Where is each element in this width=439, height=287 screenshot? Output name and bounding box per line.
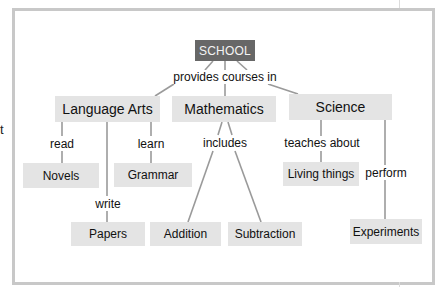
link-label-includes: includes (202, 136, 248, 150)
node-living-things[interactable]: Living things (283, 162, 359, 186)
node-papers[interactable]: Papers (71, 222, 145, 246)
link-label-teaches-about: teaches about (283, 136, 360, 150)
node-subtraction-label: Subtraction (235, 227, 296, 241)
node-school-label: SCHOOL (199, 44, 251, 58)
link-label-perform: perform (364, 166, 407, 180)
node-experiments[interactable]: Experiments (350, 219, 422, 244)
link-label-learn: learn (137, 137, 166, 151)
node-novels-label: Novels (43, 169, 80, 183)
node-addition[interactable]: Addition (150, 222, 221, 246)
node-mathematics[interactable]: Mathematics (172, 96, 276, 122)
link-label-write: write (94, 197, 121, 211)
node-experiments-label: Experiments (353, 225, 420, 239)
node-addition-label: Addition (164, 227, 207, 241)
node-science[interactable]: Science (289, 94, 392, 120)
node-grammar-label: Grammar (128, 168, 179, 182)
node-school[interactable]: SCHOOL (195, 40, 255, 61)
node-language-arts[interactable]: Language Arts (55, 96, 160, 122)
link-label-read: read (49, 137, 75, 151)
node-novels[interactable]: Novels (23, 163, 99, 188)
node-subtraction[interactable]: Subtraction (228, 222, 302, 246)
node-papers-label: Papers (89, 227, 127, 241)
node-living-things-label: Living things (288, 167, 355, 181)
link-label-provides-courses-in: provides courses in (172, 70, 277, 84)
node-grammar[interactable]: Grammar (114, 163, 192, 187)
node-language-arts-label: Language Arts (62, 101, 152, 117)
node-science-label: Science (316, 99, 366, 115)
node-mathematics-label: Mathematics (184, 101, 263, 117)
